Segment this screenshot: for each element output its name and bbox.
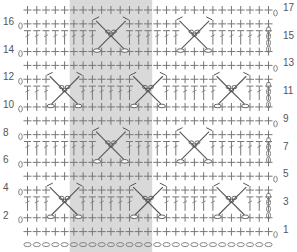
foundation-chain xyxy=(181,243,188,247)
foundation-chain xyxy=(61,243,68,247)
row-label-left: 16 xyxy=(3,17,14,27)
crochet-stitch-chart: 1614121086421715131197531 xyxy=(0,0,297,252)
turning-chain xyxy=(274,65,278,71)
row-label-right: 5 xyxy=(283,169,289,179)
turning-chain xyxy=(19,51,23,57)
crossed-stitch-motif xyxy=(177,17,213,53)
stitch-grid xyxy=(0,0,297,252)
turning-chain xyxy=(19,78,23,84)
row-label-right: 17 xyxy=(283,3,294,13)
crossed-stitch-motif xyxy=(214,183,250,219)
crossed-stitch-motif xyxy=(177,128,213,164)
row-label-right: 9 xyxy=(283,114,289,124)
foundation-chain xyxy=(24,243,31,247)
foundation-chain xyxy=(42,243,49,247)
row-label-right: 11 xyxy=(283,86,293,96)
row-label-left: 10 xyxy=(3,100,14,110)
foundation-chain xyxy=(265,243,272,247)
row-label-left: 4 xyxy=(3,183,9,193)
foundation-chain xyxy=(256,243,263,247)
row-label-right: 13 xyxy=(283,58,294,68)
crossed-stitch-motif xyxy=(214,72,250,107)
turning-chain xyxy=(274,121,278,127)
turning-chain xyxy=(274,10,278,16)
foundation-chain xyxy=(237,243,244,247)
foundation-chain xyxy=(191,243,198,247)
turning-chain xyxy=(19,106,23,112)
turning-chain xyxy=(19,217,23,223)
row-label-right: 7 xyxy=(283,142,289,152)
row-label-right: 3 xyxy=(283,197,289,207)
row-label-left: 6 xyxy=(3,155,9,165)
row-label-right: 1 xyxy=(283,225,289,235)
row-label-left: 8 xyxy=(3,128,9,138)
foundation-chain xyxy=(163,243,170,247)
foundation-chain xyxy=(209,243,216,247)
foundation-chain xyxy=(33,243,40,247)
foundation-chain xyxy=(246,243,253,247)
turning-chain xyxy=(274,176,278,182)
turning-chain xyxy=(19,134,23,140)
foundation-chain xyxy=(172,243,179,247)
row-label-left: 12 xyxy=(3,72,14,82)
turning-chain xyxy=(19,23,23,29)
foundation-chain xyxy=(219,243,226,247)
turning-chain xyxy=(19,161,23,167)
turning-chain xyxy=(274,232,278,238)
turning-chain xyxy=(19,189,23,195)
row-label-right: 15 xyxy=(283,31,294,41)
foundation-chain xyxy=(228,243,235,247)
foundation-chain xyxy=(154,243,161,247)
row-label-left: 14 xyxy=(3,45,14,55)
row-label-left: 2 xyxy=(3,211,9,221)
foundation-chain xyxy=(52,243,59,247)
foundation-chain xyxy=(200,243,207,247)
